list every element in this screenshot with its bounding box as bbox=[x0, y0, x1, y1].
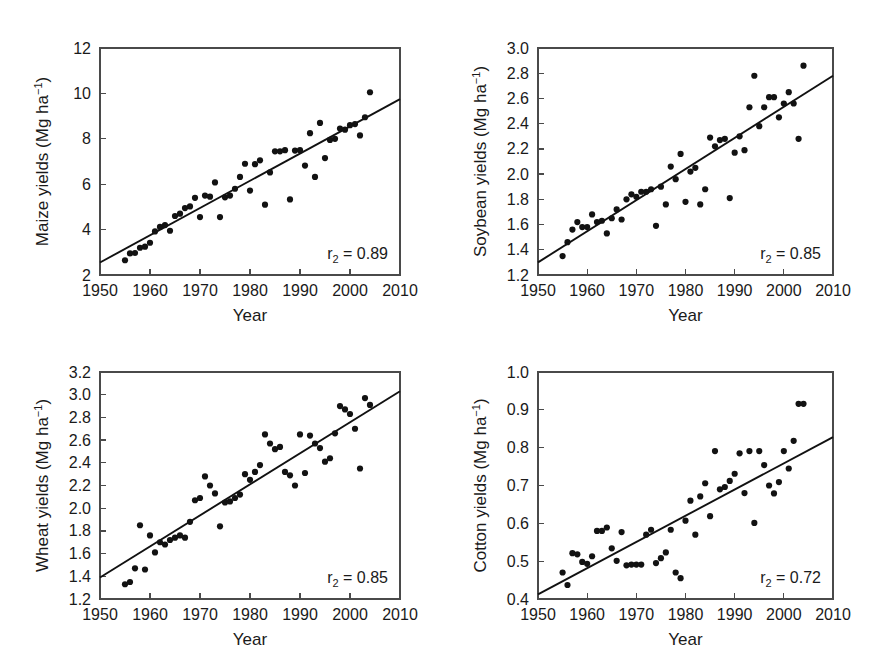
data-point bbox=[609, 545, 615, 551]
x-tick-label-cotton-5: 2000 bbox=[766, 606, 802, 623]
y-tick-label-cotton-3: 0.7 bbox=[507, 477, 529, 494]
y-axis-title-main: Cotton yields (Mg ha bbox=[471, 416, 490, 572]
data-point bbox=[197, 495, 203, 501]
data-point bbox=[761, 462, 767, 468]
x-tick-label-cotton-1: 1960 bbox=[569, 606, 605, 623]
y-axis-title-cotton: Cotton yields (Mg ha−1) bbox=[470, 398, 490, 572]
data-point bbox=[302, 162, 308, 168]
y-axis-title-superscript: −1 bbox=[470, 72, 482, 85]
x-tick-label-wheat-0: 1950 bbox=[82, 606, 118, 623]
data-point bbox=[677, 575, 683, 581]
x-tick-label-cotton-6: 2010 bbox=[815, 606, 851, 623]
data-point bbox=[677, 151, 683, 157]
data-point bbox=[267, 440, 273, 446]
chart-panel-wheat: 1.21.41.61.82.02.22.42.62.83.03.21950196… bbox=[0, 324, 436, 648]
x-axis-title-soybean: Year bbox=[668, 306, 703, 324]
y-tick-label-wheat-8: 2.8 bbox=[69, 409, 91, 426]
data-point bbox=[127, 579, 133, 585]
data-point bbox=[776, 114, 782, 120]
data-point bbox=[247, 187, 253, 193]
data-point bbox=[267, 169, 273, 175]
data-point bbox=[795, 136, 801, 142]
data-points-cotton bbox=[559, 401, 806, 588]
data-point bbox=[182, 535, 188, 541]
data-point bbox=[771, 94, 777, 100]
data-point bbox=[663, 201, 669, 207]
y-tick-label-soybean-0: 1.2 bbox=[507, 267, 529, 284]
chart-panel-maize: 246810121950196019701980199020002010Year… bbox=[0, 0, 436, 324]
data-point bbox=[292, 482, 298, 488]
x-tick-label-cotton-4: 1990 bbox=[717, 606, 753, 623]
x-tick-label-cotton-2: 1970 bbox=[619, 606, 655, 623]
data-point bbox=[297, 431, 303, 437]
x-tick-label-wheat-4: 1990 bbox=[282, 606, 318, 623]
data-point bbox=[791, 438, 797, 444]
data-point bbox=[668, 163, 674, 169]
y-tick-label-wheat-3: 1.8 bbox=[69, 522, 91, 539]
data-point bbox=[653, 560, 659, 566]
data-point bbox=[732, 471, 738, 477]
x-tick-label-maize-2: 1970 bbox=[182, 282, 218, 299]
scatter-plot-maize: 246810121950196019701980199020002010Year… bbox=[0, 0, 436, 324]
data-point bbox=[197, 214, 203, 220]
data-point bbox=[132, 565, 138, 571]
data-point bbox=[347, 411, 353, 417]
data-point bbox=[287, 196, 293, 202]
data-point bbox=[614, 558, 620, 564]
data-point bbox=[736, 450, 742, 456]
data-point bbox=[776, 479, 782, 485]
data-point bbox=[599, 218, 605, 224]
data-point bbox=[242, 161, 248, 167]
x-tick-label-soybean-6: 2010 bbox=[815, 282, 851, 299]
x-tick-label-cotton-3: 1980 bbox=[668, 606, 704, 623]
data-point bbox=[766, 482, 772, 488]
data-point bbox=[257, 157, 263, 163]
y-tick-label-soybean-6: 2.4 bbox=[507, 115, 529, 132]
x-tick-label-wheat-1: 1960 bbox=[132, 606, 168, 623]
data-point bbox=[147, 532, 153, 538]
data-point bbox=[687, 168, 693, 174]
data-point bbox=[252, 161, 258, 167]
data-point bbox=[262, 431, 268, 437]
data-point bbox=[727, 478, 733, 484]
data-point bbox=[137, 522, 143, 528]
data-point bbox=[604, 524, 610, 530]
y-axis-title-tail: ) bbox=[33, 399, 52, 405]
x-tick-label-soybean-2: 1970 bbox=[619, 282, 655, 299]
data-point bbox=[643, 532, 649, 538]
y-tick-label-soybean-7: 2.6 bbox=[507, 90, 529, 107]
data-point bbox=[786, 465, 792, 471]
data-point bbox=[786, 89, 792, 95]
data-point bbox=[673, 176, 679, 182]
data-point bbox=[287, 472, 293, 478]
r-squared-value: = 0.89 bbox=[339, 245, 388, 262]
data-point bbox=[604, 230, 610, 236]
y-axis-title-maize: Maize yields (Mg ha−1) bbox=[32, 77, 52, 246]
data-point bbox=[751, 520, 757, 526]
data-point bbox=[307, 130, 313, 136]
data-point bbox=[237, 491, 243, 497]
data-point bbox=[152, 228, 158, 234]
y-tick-label-soybean-5: 2.2 bbox=[507, 140, 529, 157]
data-point bbox=[584, 561, 590, 567]
data-point bbox=[736, 133, 742, 139]
data-point bbox=[658, 555, 664, 561]
data-point bbox=[618, 216, 624, 222]
data-point bbox=[697, 201, 703, 207]
y-tick-label-cotton-2: 0.6 bbox=[507, 515, 529, 532]
x-axis-title-maize: Year bbox=[233, 306, 268, 324]
data-point bbox=[584, 224, 590, 230]
data-point bbox=[277, 444, 283, 450]
x-tick-label-wheat-2: 1970 bbox=[182, 606, 218, 623]
data-point bbox=[638, 561, 644, 567]
data-point bbox=[317, 445, 323, 451]
data-points-soybean bbox=[559, 63, 806, 260]
data-point bbox=[367, 402, 373, 408]
x-tick-label-maize-0: 1950 bbox=[82, 282, 118, 299]
y-tick-label-wheat-0: 1.2 bbox=[69, 591, 91, 608]
y-axis-title-tail: ) bbox=[471, 66, 490, 72]
x-tick-label-soybean-0: 1950 bbox=[520, 282, 556, 299]
data-point bbox=[257, 462, 263, 468]
data-point bbox=[692, 165, 698, 171]
y-tick-label-maize-5: 12 bbox=[73, 40, 91, 57]
